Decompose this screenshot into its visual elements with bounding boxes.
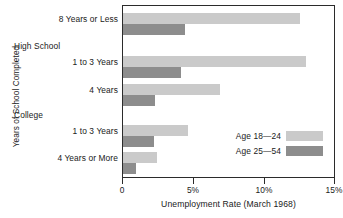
x-tick-label-5: 5% xyxy=(187,185,199,195)
plot-area: Age 18—24 Age 25—54 xyxy=(122,5,335,178)
bar-hs-1-to-3-age25-54 xyxy=(123,67,181,78)
legend-label-age-25-54: Age 25—54 xyxy=(225,146,281,156)
legend-swatch-age-25-54 xyxy=(286,146,323,156)
category-label-column: 8 Years or Less High School 1 to 3 Years… xyxy=(14,0,120,178)
x-tick-mark-15 xyxy=(334,178,335,184)
legend-item-age-25-54: Age 25—54 xyxy=(225,145,323,156)
bar-college-1-to-3-age25-54 xyxy=(123,136,154,147)
x-tick-label-10: 10% xyxy=(256,185,273,195)
category-label-hs-1-to-3-years: 1 to 3 Years xyxy=(73,57,118,67)
bar-college-1-to-3-age18-24 xyxy=(123,125,188,136)
x-tick-label-15: 15% xyxy=(326,185,343,195)
bar-8-years-or-less-age25-54 xyxy=(123,24,185,35)
x-axis-title: Unemployment Rate (March 1968) xyxy=(122,199,335,209)
bar-8-years-or-less-age18-24 xyxy=(123,13,300,24)
x-tick-mark-0 xyxy=(122,178,123,184)
bar-hs-1-to-3-age18-24 xyxy=(123,56,306,67)
group-header-college: College xyxy=(14,110,43,120)
category-label-college-4-or-more: 4 Years or More xyxy=(57,153,118,163)
legend-swatch-age-18-24 xyxy=(286,131,323,141)
x-tick-label-0: 0 xyxy=(120,185,125,195)
category-label-college-1-to-3-years: 1 to 3 Years xyxy=(73,126,118,136)
bar-hs-4-years-age18-24 xyxy=(123,84,220,95)
x-tick-mark-10 xyxy=(264,178,265,184)
bar-chart: Years of School Completed 8 Years or Les… xyxy=(0,0,343,218)
bar-college-4-or-more-age18-24 xyxy=(123,152,157,163)
legend-item-age-18-24: Age 18—24 xyxy=(225,130,323,141)
category-label-hs-4-years: 4 Years xyxy=(89,85,118,95)
category-label-8-years-or-less: 8 Years or Less xyxy=(59,14,118,24)
legend-label-age-18-24: Age 18—24 xyxy=(225,131,281,141)
bar-college-4-or-more-age25-54 xyxy=(123,163,136,174)
bar-hs-4-years-age25-54 xyxy=(123,95,155,106)
group-header-high-school: High School xyxy=(14,41,60,51)
legend: Age 18—24 Age 25—54 xyxy=(225,130,323,160)
x-tick-mark-5 xyxy=(193,178,194,184)
